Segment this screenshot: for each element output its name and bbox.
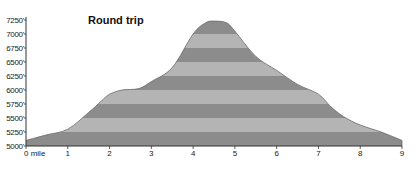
elevation-band xyxy=(26,104,402,118)
x-tick-label: 3 xyxy=(149,149,154,158)
y-tick-label: 6500' xyxy=(6,58,25,67)
chart-title: Round trip xyxy=(88,14,144,26)
y-axis-ticks: 5000'5250'5500'5750'6000'6250'6500'6750'… xyxy=(6,16,26,151)
x-tick-label: 2 xyxy=(107,149,112,158)
y-tick-label: 5750' xyxy=(6,100,25,109)
x-tick-label: 4 xyxy=(191,149,196,158)
x-tick-label: 9 xyxy=(400,149,405,158)
x-tick-label: 1 xyxy=(66,149,71,158)
elevation-band xyxy=(26,76,402,90)
x-tick-label: 0 mile xyxy=(24,149,46,158)
y-tick-label: 6750' xyxy=(6,44,25,53)
elevation-band xyxy=(26,20,402,34)
elevation-bands xyxy=(26,6,402,146)
y-tick-label: 5250' xyxy=(6,128,25,137)
y-tick-label: 7250' xyxy=(6,16,25,25)
x-tick-label: 8 xyxy=(358,149,363,158)
x-tick-label: 5 xyxy=(233,149,238,158)
elevation-band xyxy=(26,34,402,48)
x-tick-label: 7 xyxy=(316,149,321,158)
elevation-band xyxy=(26,62,402,76)
y-tick-label: 6000' xyxy=(6,86,25,95)
elevation-profile-chart: 5000'5250'5500'5750'6000'6250'6500'6750'… xyxy=(0,0,416,170)
y-tick-label: 5500' xyxy=(6,114,25,123)
elevation-band xyxy=(26,90,402,104)
y-tick-label: 7000' xyxy=(6,30,25,39)
y-tick-label: 6250' xyxy=(6,72,25,81)
elevation-band xyxy=(26,118,402,132)
elevation-band xyxy=(26,48,402,62)
elevation-band xyxy=(26,6,402,20)
elevation-band xyxy=(26,132,402,146)
y-tick-label: 5000' xyxy=(6,142,25,151)
x-axis-ticks: 0 mile123456789 xyxy=(24,146,405,158)
x-tick-label: 6 xyxy=(274,149,279,158)
